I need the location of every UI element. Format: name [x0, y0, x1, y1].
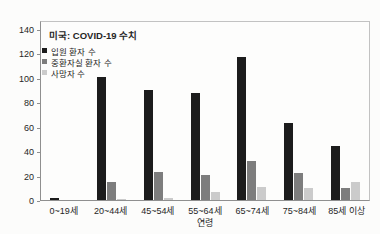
y-tick-label: 140	[2, 25, 34, 35]
bar-icu	[107, 182, 116, 200]
y-tick-mark	[37, 103, 40, 104]
bar-icu	[294, 173, 303, 200]
y-tick-label: 0	[2, 196, 34, 206]
bar-hospitalized	[331, 146, 340, 201]
y-tick-label: 60	[2, 123, 34, 133]
y-tick-mark	[37, 30, 40, 31]
bar-icu	[154, 172, 163, 200]
y-tick-label: 120	[2, 49, 34, 59]
bar-deaths	[211, 192, 220, 201]
bar-hospitalized	[237, 57, 246, 200]
bar-icu	[247, 161, 256, 200]
legend-marker-hospitalized	[42, 48, 47, 53]
bar-hospitalized	[50, 198, 59, 200]
y-tick-mark	[37, 201, 40, 202]
legend-row: 사망자 수	[42, 67, 112, 78]
y-tick-label: 20	[2, 172, 34, 182]
legend-row: 중환자실 환자 수	[42, 56, 112, 67]
chart-title: 미국: COVID-19 수치	[49, 28, 137, 42]
bar-deaths	[257, 187, 266, 200]
bar-deaths	[164, 198, 173, 200]
legend-row: 입원 환자 수	[42, 45, 112, 56]
y-tick-mark	[37, 79, 40, 80]
y-tick-label: 100	[2, 74, 34, 84]
legend-marker-deaths	[42, 70, 47, 75]
bar-deaths	[304, 188, 313, 200]
bar-hospitalized	[284, 123, 293, 201]
legend: 입원 환자 수중환자실 환자 수사망자 수	[42, 45, 112, 78]
x-axis-title: 연령	[40, 216, 370, 229]
y-tick-mark	[37, 128, 40, 129]
bar-deaths	[351, 182, 360, 200]
y-tick-label: 80	[2, 98, 34, 108]
y-tick-mark	[37, 177, 40, 178]
bar-deaths	[117, 199, 126, 200]
covid-age-bar-chart: 미국: COVID-19 수치 입원 환자 수중환자실 환자 수사망자 수 02…	[0, 0, 380, 234]
bar-icu	[341, 188, 350, 200]
y-tick-mark	[37, 54, 40, 55]
y-tick-mark	[37, 152, 40, 153]
bar-hospitalized	[144, 90, 153, 200]
bar-group	[182, 22, 229, 200]
legend-label: 사망자 수	[51, 67, 85, 79]
bar-hospitalized	[191, 93, 200, 200]
y-tick-label: 40	[2, 147, 34, 157]
legend-marker-icu	[42, 59, 47, 64]
bar-hospitalized	[97, 77, 106, 201]
bar-group	[228, 22, 275, 200]
bar-icu	[201, 175, 210, 200]
bar-group	[322, 22, 369, 200]
plot-area: 미국: COVID-19 수치 입원 환자 수중환자실 환자 수사망자 수	[40, 21, 370, 201]
bar-group	[135, 22, 182, 200]
bar-group	[275, 22, 322, 200]
